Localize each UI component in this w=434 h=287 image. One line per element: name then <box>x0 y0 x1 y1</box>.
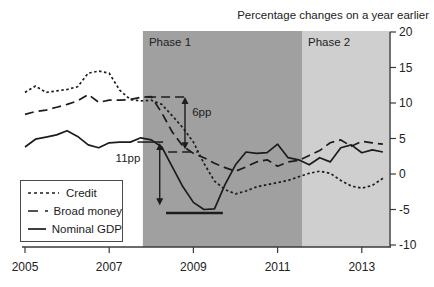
plot-canvas: Phase 1Phase 220052007200920112013201510… <box>0 0 434 287</box>
chart-title: Percentage changes on a year earlier <box>237 9 429 21</box>
y-tick-label: 5 <box>399 132 406 146</box>
x-tick-label: 2013 <box>348 260 375 274</box>
y-tick-label: 10 <box>399 96 413 110</box>
phase-1-label: Phase 1 <box>149 36 191 48</box>
legend-label-credit: Credit <box>66 187 97 199</box>
x-tick-label: 2005 <box>12 260 39 274</box>
phase-2-region <box>302 31 391 247</box>
y-tick-label: 20 <box>399 25 413 39</box>
credit-line-sample <box>27 190 60 196</box>
annotation-label-11pp: 11pp <box>116 152 141 164</box>
y-tick-label: -10 <box>399 238 417 252</box>
legend-item-broad-money: Broad money <box>27 205 122 217</box>
phase-2-label: Phase 2 <box>308 36 350 48</box>
legend-item-credit: Credit <box>27 187 122 199</box>
broad-money-line-sample <box>27 208 48 214</box>
legend: Credit Broad money Nominal GDP <box>20 180 123 242</box>
legend-label-nominal-gdp: Nominal GDP <box>52 223 122 235</box>
phase-1-region <box>143 31 302 247</box>
x-tick-label: 2007 <box>96 260 123 274</box>
y-tick-label: 0 <box>399 167 406 181</box>
x-tick-label: 2009 <box>180 260 207 274</box>
y-tick-label: 15 <box>399 61 413 75</box>
chart: Phase 1Phase 220052007200920112013201510… <box>0 0 434 287</box>
legend-label-broad-money: Broad money <box>54 205 122 217</box>
legend-item-nominal-gdp: Nominal GDP <box>27 223 122 235</box>
y-tick-label: -5 <box>399 203 410 217</box>
x-tick-label: 2011 <box>265 260 291 274</box>
annotation-label-6pp: 6pp <box>192 106 211 118</box>
nominal-gdp-line-sample <box>27 226 46 232</box>
